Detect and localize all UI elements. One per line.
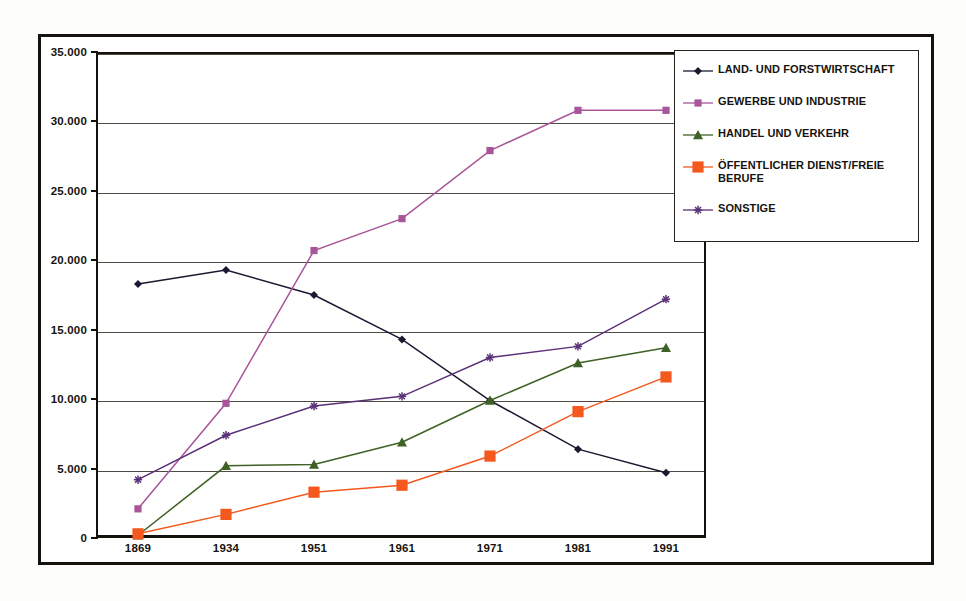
data-point-marker: [572, 406, 583, 417]
legend-entry-4[interactable]: SONSTIGE: [683, 202, 912, 217]
screenshot-canvas: 05.00010.00015.00020.00025.00030.00035.0…: [0, 0, 966, 601]
chart-legend: LAND- UND FORSTWIRTSCHAFTGEWERBE UND IND…: [674, 50, 919, 242]
y-tick-label: 30.000: [51, 115, 87, 127]
data-point-marker: [134, 505, 141, 512]
legend-swatch-icon: [683, 64, 713, 78]
x-tick-label-1981: 1981: [565, 542, 591, 554]
legend-swatch-icon: [683, 128, 713, 142]
y-tick-label: 0: [80, 532, 87, 544]
legend-entry-0[interactable]: LAND- UND FORSTWIRTSCHAFT: [683, 63, 912, 78]
data-point-marker: [574, 342, 582, 350]
legend-label: ÖFFENTLICHER DIENST/FREIE BERUFE: [718, 159, 912, 185]
legend-swatch-icon: [683, 96, 713, 110]
legend-entry-1[interactable]: GEWERBE UND INDUSTRIE: [683, 95, 912, 110]
chart-object: 05.00010.00015.00020.00025.00030.00035.0…: [46, 42, 926, 557]
legend-entry-2[interactable]: HANDEL UND VERKEHR: [683, 127, 912, 142]
data-point-marker: [222, 431, 230, 439]
data-point-marker: [396, 480, 407, 491]
y-tick-label: 20.000: [51, 254, 87, 266]
data-point-marker: [308, 487, 319, 498]
data-point-marker: [134, 475, 142, 483]
data-point-marker: [310, 247, 317, 254]
data-point-marker: [660, 371, 671, 382]
data-point-marker: [398, 215, 405, 222]
series-lines-group: [96, 52, 706, 538]
data-point-marker: [662, 107, 669, 114]
x-tick-label-1971: 1971: [477, 542, 503, 554]
x-tick-label-1991: 1991: [653, 542, 679, 554]
data-point-marker: [484, 450, 495, 461]
legend-label: HANDEL UND VERKEHR: [718, 127, 849, 140]
data-point-marker: [486, 353, 494, 361]
y-tick-label: 10.000: [51, 393, 87, 405]
series-4: [134, 295, 670, 484]
data-point-marker: [662, 295, 670, 303]
data-point-marker: [310, 291, 318, 299]
legend-label: SONSTIGE: [718, 202, 776, 215]
x-tick-label-1951: 1951: [301, 542, 327, 554]
y-tick-label: 5.000: [57, 463, 87, 475]
data-point-marker: [574, 107, 581, 114]
x-tick-label-1869: 1869: [125, 542, 151, 554]
y-tick-label: 35.000: [51, 46, 87, 58]
legend-entry-3[interactable]: ÖFFENTLICHER DIENST/FREIE BERUFE: [683, 159, 912, 185]
data-point-marker: [222, 400, 229, 407]
data-point-marker: [220, 509, 231, 520]
y-tick-label: 15.000: [51, 324, 87, 336]
data-point-marker: [134, 280, 142, 288]
series-line: [138, 299, 666, 480]
data-point-marker: [398, 392, 406, 400]
legend-swatch-icon: [683, 203, 713, 217]
x-tick-label-1934: 1934: [213, 542, 239, 554]
legend-label: GEWERBE UND INDUSTRIE: [718, 95, 866, 108]
data-point-marker: [132, 528, 143, 539]
series-line: [138, 110, 666, 509]
data-point-marker: [574, 445, 582, 453]
legend-label: LAND- UND FORSTWIRTSCHAFT: [718, 63, 895, 76]
legend-swatch-icon: [683, 160, 713, 174]
x-tick-label-1961: 1961: [389, 542, 415, 554]
data-point-marker: [222, 266, 230, 274]
data-point-marker: [662, 469, 670, 477]
data-point-marker: [661, 343, 671, 352]
data-point-marker: [486, 147, 493, 154]
y-tick-label: 25.000: [51, 185, 87, 197]
data-point-marker: [310, 402, 318, 410]
data-point-marker: [397, 437, 407, 446]
